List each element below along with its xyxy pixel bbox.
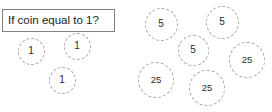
coin-1[interactable]: 1 (64, 33, 91, 60)
coin-label: 1 (74, 41, 80, 51)
coin-label: 5 (219, 17, 225, 27)
coin-5[interactable]: 5 (206, 6, 239, 39)
coin-label: 5 (158, 19, 164, 29)
coin-1[interactable]: 1 (18, 38, 45, 65)
decision-condition-box[interactable]: If coin equal to 1? (2, 9, 115, 32)
coin-label: 25 (202, 83, 213, 93)
coin-label: 1 (59, 75, 65, 85)
coin-label: 25 (242, 55, 253, 65)
coin-label: 25 (151, 75, 162, 85)
coin-25[interactable]: 25 (189, 70, 225, 106)
coin-25[interactable]: 25 (229, 42, 265, 78)
decision-condition-label: If coin equal to 1? (3, 15, 99, 27)
coin-label: 5 (190, 45, 196, 55)
diagram-canvas: If coin equal to 1? 111555252525 (0, 0, 272, 112)
coin-5[interactable]: 5 (145, 8, 178, 41)
coin-label: 1 (28, 46, 34, 56)
coin-5[interactable]: 5 (178, 35, 209, 66)
coin-25[interactable]: 25 (138, 62, 174, 98)
coin-1[interactable]: 1 (49, 67, 76, 94)
